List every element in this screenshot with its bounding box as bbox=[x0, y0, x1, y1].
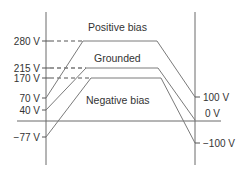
right-tick-label-100: 100 V bbox=[203, 92, 229, 103]
left-tick-label-70: 70 V bbox=[19, 93, 40, 104]
right-tick-label-0: 0 V bbox=[205, 108, 220, 119]
left-tick-label-40: 40 V bbox=[19, 105, 40, 116]
left-tick-label-170: 170 V bbox=[14, 73, 40, 84]
right-tick-label-minus100: −100 V bbox=[203, 138, 235, 149]
left-tick-label-280: 280 V bbox=[14, 36, 40, 47]
right-ticks bbox=[195, 97, 200, 143]
label-grounded: Grounded bbox=[94, 52, 141, 64]
label-positive-bias: Positive bias bbox=[88, 21, 147, 33]
left-tick-label-minus77: −77 V bbox=[14, 132, 41, 143]
bias-voltage-diagram: 280 V 215 V 170 V 70 V 40 V −77 V 100 V … bbox=[0, 0, 249, 176]
label-negative-bias: Negative bias bbox=[86, 94, 150, 106]
